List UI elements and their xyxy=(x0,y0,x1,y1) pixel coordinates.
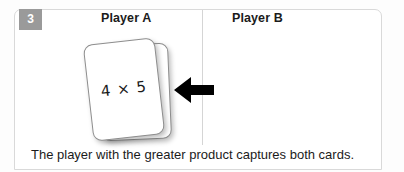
card-front: 4 × 5 xyxy=(83,37,166,142)
card-expression: 4 × 5 xyxy=(88,76,160,102)
column-header-player-a: Player A xyxy=(101,11,151,25)
worked-example-panel: 3 Player A Player B 4 × 5 The player wit… xyxy=(0,0,404,172)
column-header-player-b: Player B xyxy=(232,11,283,25)
step-number-badge: 3 xyxy=(19,9,42,30)
instruction-caption: The player with the greater product capt… xyxy=(31,147,354,162)
left-arrow-icon xyxy=(174,76,214,104)
